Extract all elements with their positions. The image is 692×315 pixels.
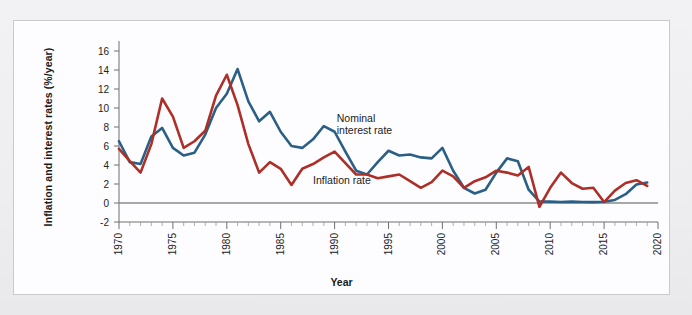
y-tick-label: 16 — [85, 46, 109, 57]
y-tick-label: 14 — [85, 65, 109, 76]
nominal-interest-rate-annotation: Nominal interest rate — [337, 112, 392, 137]
x-tick-label: 1990 — [329, 233, 340, 255]
x-tick-label: 1980 — [221, 233, 232, 255]
data-lines — [119, 69, 647, 207]
x-tick-label: 2020 — [652, 233, 663, 255]
y-tick-label: 4 — [85, 160, 109, 171]
x-tick-label: 2010 — [544, 233, 555, 255]
y-tick-label: 12 — [85, 84, 109, 95]
x-tick-label: 1985 — [275, 233, 286, 255]
x-tick-label: 1970 — [113, 233, 124, 255]
x-tick-label: 2005 — [490, 233, 501, 255]
x-tick-label: 1975 — [167, 233, 178, 255]
x-tick-label: 2000 — [436, 233, 447, 255]
inflation-rate-annotation: Inflation rate — [313, 174, 371, 187]
y-tick-label: 10 — [85, 103, 109, 114]
y-tick-label: 8 — [85, 122, 109, 133]
figure-page: Inflation and interest rates (%/year) Ye… — [0, 0, 692, 315]
y-tick-label: -2 — [85, 217, 109, 228]
y-tick-label: 6 — [85, 141, 109, 152]
chart-panel: Inflation and interest rates (%/year) Ye… — [13, 20, 670, 295]
y-tick-label: 0 — [85, 198, 109, 209]
x-tick-label: 1995 — [383, 233, 394, 255]
x-tick-label: 2015 — [598, 233, 609, 255]
y-tick-label: 2 — [85, 179, 109, 190]
